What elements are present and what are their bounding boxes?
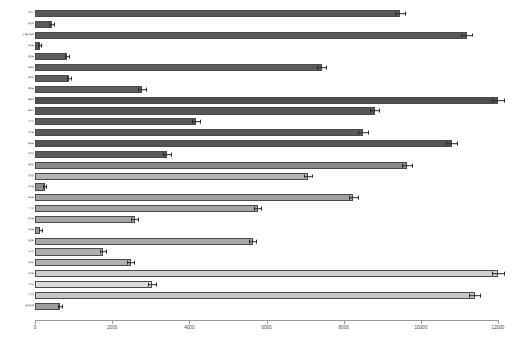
category-label: 奶类 [4, 218, 34, 221]
x-tick-label: 2000 [107, 326, 117, 331]
bar-row: 薯类 [0, 51, 513, 62]
error-cap-high [71, 77, 72, 81]
error-cap-low [138, 87, 139, 91]
category-label: 烟叶 [4, 109, 34, 112]
x-tick-label: 0 [34, 326, 37, 331]
bar-row: 茶叶 [0, 116, 513, 127]
x-tick-label: 12000 [492, 326, 505, 331]
bar [35, 292, 475, 299]
error-cap-low [58, 304, 59, 308]
bar [35, 259, 131, 266]
category-label: 水果 [4, 131, 34, 134]
x-tick [421, 320, 422, 324]
x-tick-label: 8000 [339, 326, 349, 331]
bar-row: 棉花 [0, 73, 513, 84]
error-cap-high [46, 185, 47, 189]
error-bar [492, 273, 504, 274]
bar [35, 118, 196, 125]
error-cap-low [446, 142, 447, 146]
error-cap-low [254, 207, 255, 211]
error-cap-low [65, 55, 66, 59]
bar [35, 281, 152, 288]
error-bar [402, 165, 412, 166]
category-label: 林业 [4, 272, 34, 275]
error-cap-low [43, 185, 44, 189]
category-label: 蔬菜 [4, 142, 34, 145]
error-cap-high [472, 33, 473, 37]
error-cap-high [171, 152, 172, 156]
error-bar [349, 197, 358, 198]
error-cap-high [358, 196, 359, 200]
category-label: 糖料 [4, 99, 34, 102]
error-cap-high [69, 55, 70, 59]
bar-row: 家禽 [0, 192, 513, 203]
error-cap-low [469, 293, 470, 297]
category-label: 木材 [4, 283, 34, 286]
error-cap-low [402, 163, 403, 167]
bar [35, 238, 253, 245]
bar-row: 合计 [0, 8, 513, 19]
error-cap-low [395, 11, 396, 15]
category-label: 其他林 [4, 305, 34, 308]
error-cap-low [304, 174, 305, 178]
bar [35, 140, 452, 147]
error-cap-low [249, 239, 250, 243]
category-label: 生猪 [4, 185, 34, 188]
error-cap-high [42, 228, 43, 232]
error-cap-low [127, 261, 128, 265]
bar-row: 油料 [0, 62, 513, 73]
error-cap-low [67, 77, 68, 81]
bar [35, 97, 498, 104]
x-tick [35, 320, 36, 324]
error-bar [148, 284, 155, 285]
error-bar [192, 121, 200, 122]
error-cap-low [349, 196, 350, 200]
error-bar [131, 219, 138, 220]
x-tick [112, 320, 113, 324]
x-tick-label: 4000 [184, 326, 194, 331]
category-label: 牛羊 [4, 207, 34, 210]
bar [35, 129, 363, 136]
error-cap-low [492, 98, 493, 102]
error-bar [138, 89, 145, 90]
bar-row: 牛羊 [0, 203, 513, 214]
bar-row: 小麦玉米 [0, 30, 513, 41]
bar-row: 林业 [0, 268, 513, 279]
bar-row: 水果 [0, 127, 513, 138]
error-bar [446, 143, 457, 144]
bar-row: 渔业 [0, 236, 513, 247]
error-cap-high [457, 142, 458, 146]
error-cap-low [358, 131, 359, 135]
error-cap-high [504, 272, 505, 276]
category-label: 麻类 [4, 88, 34, 91]
error-bar [469, 295, 480, 296]
category-label: 棉花 [4, 77, 34, 80]
bar [35, 107, 375, 114]
x-tick-label: 10000 [414, 326, 427, 331]
error-cap-low [317, 66, 318, 70]
bar-row: 麻类 [0, 84, 513, 95]
error-cap-high [405, 11, 406, 15]
error-cap-high [379, 109, 380, 113]
bar [35, 151, 167, 158]
bar-row: 其他 [0, 160, 513, 171]
category-label: 畜牧 [4, 175, 34, 178]
bar [35, 173, 308, 180]
error-bar [492, 100, 504, 101]
bar [35, 216, 135, 223]
bar-row: 其他林 [0, 301, 513, 312]
bar-row: 木材 [0, 279, 513, 290]
error-cap-high [256, 239, 257, 243]
error-cap-low [49, 22, 50, 26]
error-cap-high [138, 217, 139, 221]
error-cap-high [312, 174, 313, 178]
category-label: 稻谷 [4, 23, 34, 26]
category-label: 合计 [4, 12, 34, 15]
bar [35, 248, 103, 255]
bar [35, 10, 400, 17]
error-cap-high [326, 66, 327, 70]
category-label: 茶叶 [4, 120, 34, 123]
error-cap-high [200, 120, 201, 124]
bar-row: 蛋类 [0, 225, 513, 236]
bar-row: 蔬菜 [0, 138, 513, 149]
